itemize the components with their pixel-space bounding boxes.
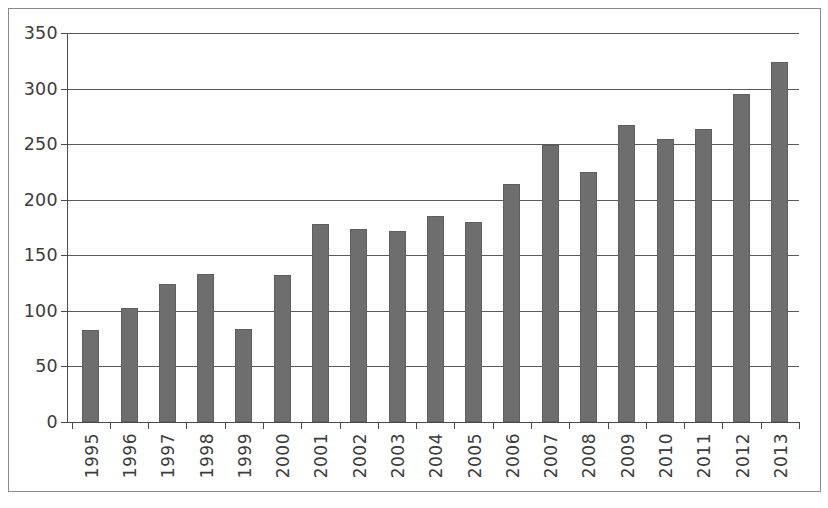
y-tick-mark: [61, 33, 67, 34]
x-tick-mark: [148, 422, 149, 429]
x-tick-label: 1996: [120, 433, 140, 478]
x-tick-mark: [761, 422, 762, 429]
y-tick-label: 200: [24, 190, 58, 210]
x-tick-mark: [493, 422, 494, 429]
x-tick-label: 2004: [426, 433, 446, 478]
x-tick-label: 2008: [579, 433, 599, 478]
x-tick-mark: [340, 422, 341, 429]
x-tick-label: 2013: [771, 433, 791, 478]
bar: [695, 129, 712, 422]
x-tick-label: 2007: [541, 433, 561, 478]
bar: [312, 224, 329, 422]
x-tick-label: 1999: [235, 433, 255, 478]
x-tick-label: 2000: [273, 433, 293, 478]
y-tick-mark: [61, 200, 67, 201]
x-tick-label: 1995: [82, 433, 102, 478]
y-axis-line: [67, 33, 68, 422]
x-tick-label: 2009: [618, 433, 638, 478]
x-axis-line: [67, 422, 799, 423]
bar: [771, 62, 788, 422]
y-tick-mark: [61, 144, 67, 145]
x-tick-label: 2011: [694, 433, 714, 478]
y-tick-label: 150: [24, 245, 58, 265]
x-tick-mark: [378, 422, 379, 429]
bar: [82, 330, 99, 422]
x-tick-mark: [72, 422, 73, 429]
y-tick-mark: [61, 422, 67, 423]
x-tick-mark: [531, 422, 532, 429]
y-tick-label: 0: [47, 412, 58, 432]
x-tick-mark: [608, 422, 609, 429]
x-tick-label: 2010: [656, 433, 676, 478]
bar: [350, 229, 367, 422]
bar: [235, 329, 252, 422]
x-tick-mark: [646, 422, 647, 429]
bar: [465, 222, 482, 422]
gridline: [67, 33, 799, 34]
y-tick-label: 350: [24, 23, 58, 43]
plot-area: 050100150200250300350 199519961997199819…: [67, 33, 799, 422]
gridline: [67, 200, 799, 201]
y-tick-mark: [61, 89, 67, 90]
bar: [389, 231, 406, 422]
gridline: [67, 144, 799, 145]
y-tick-label: 100: [24, 301, 58, 321]
bar: [657, 139, 674, 422]
bar: [503, 184, 520, 422]
y-tick-mark: [61, 255, 67, 256]
x-tick-mark: [263, 422, 264, 429]
y-tick-mark: [61, 311, 67, 312]
x-tick-mark: [684, 422, 685, 429]
bar: [274, 275, 291, 422]
bar: [618, 125, 635, 422]
x-tick-label: 1997: [158, 433, 178, 478]
x-tick-mark: [799, 422, 800, 429]
bar: [121, 308, 138, 422]
x-tick-mark: [722, 422, 723, 429]
x-tick-label: 2001: [311, 433, 331, 478]
x-tick-mark: [186, 422, 187, 429]
x-tick-mark: [225, 422, 226, 429]
x-tick-label: 2002: [350, 433, 370, 478]
x-tick-mark: [454, 422, 455, 429]
bar: [159, 284, 176, 422]
y-tick-label: 300: [24, 79, 58, 99]
bar: [197, 274, 214, 422]
x-tick-label: 2005: [465, 433, 485, 478]
gridline: [67, 89, 799, 90]
x-tick-label: 2003: [388, 433, 408, 478]
bar: [427, 216, 444, 422]
y-tick-label: 250: [24, 134, 58, 154]
x-tick-mark: [416, 422, 417, 429]
x-tick-label: 2012: [733, 433, 753, 478]
x-tick-mark: [569, 422, 570, 429]
bar: [542, 145, 559, 422]
x-tick-label: 2006: [503, 433, 523, 478]
y-tick-mark: [61, 366, 67, 367]
x-tick-mark: [301, 422, 302, 429]
x-tick-label: 1998: [197, 433, 217, 478]
bar: [733, 94, 750, 422]
x-tick-mark: [110, 422, 111, 429]
y-tick-label: 50: [35, 356, 58, 376]
chart-figure: 050100150200250300350 199519961997199819…: [8, 8, 821, 492]
bar: [580, 172, 597, 422]
